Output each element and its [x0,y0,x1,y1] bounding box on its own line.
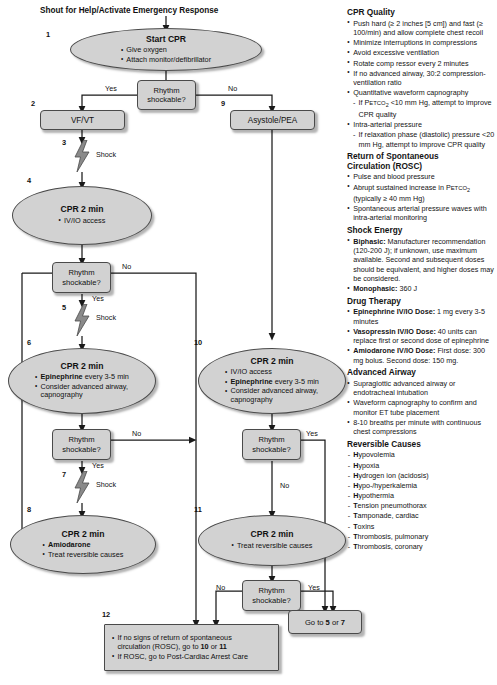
goto-or: or [330,618,341,627]
rosc-item-1: Pulse and blood pressure [347,172,495,181]
rosc-petco2-rest: (typically ≥ 40 mm Hg) [353,194,424,203]
advanced-airway-item-3: 8-10 breaths per minute with continuous … [347,418,495,437]
step-number-9: 9 [221,99,225,108]
rc-7-rest: amponade, cardiac [358,511,419,520]
petco2-prefix: If P [359,98,370,107]
rc-3-rest: ydrogen ion (acidosis) [358,471,428,480]
epinephrine-label-6: Epinephrine [40,372,82,381]
step-number-1: 1 [46,30,50,39]
advanced-airway-heading: Advanced Airway [347,368,495,378]
outcome-goto-11: 11 [219,642,227,651]
shock-energy-list: Biphasic: Manufacturer recommendation (1… [347,237,495,294]
node-cpr-2min-6[interactable]: CPR 2 min Epinephrine every 3-5 min Cons… [8,348,156,414]
step-number-8: 8 [27,505,31,514]
node-cpr-2min-11-line-1: Treat reversible causes [232,542,313,551]
decision-rhythm-shockable-5[interactable]: Rhythm shockable? [242,580,301,611]
drug-item-vasopressin: Vasopressin IV/IO Dose: 40 units can rep… [347,327,495,346]
shock-energy-heading: Shock Energy [347,226,495,236]
decision-2-line-1: Rhythm [55,268,108,277]
advanced-airway-list: Supraglottic advanced airway or endotrac… [347,379,495,437]
node-cpr-2min-4-line-1: IV/IO access [59,217,106,226]
shock-energy-biphasic: Biphasic: Manufacturer recommendation (1… [347,237,495,284]
shock-bolt-icon-5 [73,304,91,340]
node-cpr-2min-4[interactable]: CPR 2 min IV/IO access [12,186,152,245]
epinephrine-dose-label: Epinephrine IV/IO Dose: [353,307,435,316]
edge-label-yes-3: Yes [92,461,104,470]
node-asystole-pea[interactable]: Asystole/PEA [230,110,315,130]
rosc-petco2-prefix: Abrupt sustained increase in P [353,183,451,192]
node-outcome-lines: If no signs of return of spontaneouscirc… [112,634,271,662]
node-vf-vt[interactable]: VF/VT [40,110,125,130]
reversible-cause-6: Tension pneumothorax [347,501,495,510]
node-cpr-2min-11-title: CPR 2 min [219,530,325,540]
advanced-airway-item-1: Supraglottic advanced airway or endotrac… [347,379,495,398]
rc-8-rest: oxins [358,522,375,531]
edge-label-shock-3: Shock [96,150,116,159]
edge-label-no-1: No [228,84,237,93]
drug-therapy-heading: Drug Therapy [347,297,495,307]
top-instruction-text: Shout for Help/Activate Emergency Respon… [40,6,218,15]
reversible-cause-2: Hypoxia [347,461,495,470]
edge-label-shock-5: Shock [96,313,116,322]
epinephrine-label-10: Epinephrine [230,377,272,386]
vasopressin-dose-label: Vasopressin IV/IO Dose: [353,327,436,336]
node-cpr-2min-8-title: CPR 2 min [33,530,133,540]
node-start-cpr-title: Start CPR [93,35,239,45]
decision-2-line-2: shockable? [55,278,108,287]
edge-label-shock-7: Shock [96,480,116,489]
shock-energy-monophasic: Monophasic: 360 J [347,284,495,293]
cpr-quality-item-capnography-detail: If PETCO2 <10 mm Hg, attempt to improve … [347,98,495,119]
edge-label-no-5: No [216,583,225,592]
section-drug-therapy: Drug Therapy Epinephrine IV/IO Dose: 1 m… [347,297,495,366]
reversible-causes-heading: Reversible Causes [347,440,495,450]
node-cpr-2min-8[interactable]: CPR 2 min Amiodarone Treat reversible ca… [10,515,156,574]
edge-label-no-3: No [132,429,141,438]
reversible-causes-list: Hypovolemia Hypoxia Hydrogen ion (acidos… [347,450,495,551]
decision-rhythm-shockable-1[interactable]: Rhythm shockable? [137,80,196,110]
reversible-cause-7: Tamponade, cardiac [347,511,495,520]
airway-text-6: Consider advanced airway, [40,382,127,391]
node-cpr-2min-11[interactable]: CPR 2 min Treat reversible causes [198,515,346,566]
rosc-item-3: Spontaneous arterial pressure waves with… [347,204,495,223]
go-to-label: Go to 5 or 7 [289,618,361,627]
step-number-3: 3 [62,138,66,147]
outcome-l1a: If no signs of return of spontaneous [117,633,231,642]
rc-9-rest: hrombosis, pulmonary [358,532,429,541]
node-start-cpr[interactable]: Start CPR Give oxygen Attach monitor/def… [70,28,262,71]
section-shock-energy: Shock Energy Biphasic: Manufacturer reco… [347,226,495,294]
edge-label-no-2: No [122,262,131,271]
shock-bolt-icon-3 [73,140,91,176]
node-vf-vt-label: VF/VT [41,116,124,125]
node-cpr-2min-10-lines: IV/IO access Epinephrine every 3-5 min C… [225,368,319,405]
reversible-cause-5: Hypothermia [347,491,495,500]
biphasic-label: Biphasic: [353,237,385,246]
decision-rhythm-shockable-2[interactable]: Rhythm shockable? [52,262,111,293]
rc-1-rest: ypovolemia [358,450,394,459]
edge-label-no-4: No [280,481,289,490]
section-reversible-causes: Reversible Causes Hypovolemia Hypoxia Hy… [347,440,495,552]
monophasic-text: 360 J [398,284,418,293]
decision-3-line-1: Rhythm [55,435,108,444]
section-rosc: Return of Spontaneous Circulation (ROSC)… [347,152,495,223]
node-asystole-pea-label: Asystole/PEA [231,116,314,125]
decision-rhythm-shockable-3[interactable]: Rhythm shockable? [52,429,111,460]
reversible-cause-8: Toxins [347,522,495,531]
node-cpr-2min-10[interactable]: CPR 2 min IV/IO access Epinephrine every… [198,348,346,414]
drug-therapy-list: Epinephrine IV/IO Dose: 1 mg every 3-5 m… [347,307,495,365]
node-go-to-5-or-7[interactable]: Go to 5 or 7 [288,610,362,634]
shock-bolt-icon-7 [73,471,91,507]
node-cpr-2min-10-line-3: Consider advanced airway, [225,387,319,396]
cpr-quality-item-5: If no advanced airway, 30:2 compression-… [347,69,495,88]
epinephrine-rest-6: every 3-5 min [83,372,129,381]
decision-rhythm-shockable-4[interactable]: Rhythm shockable? [242,429,301,460]
node-outcome-box[interactable]: If no signs of return of spontaneouscirc… [104,624,279,671]
goto-prefix: Go to [305,618,326,627]
node-outcome-line-1: If no signs of return of spontaneouscirc… [112,634,271,652]
node-cpr-2min-4-lines: IV/IO access [59,216,106,225]
rosc-item-2: Abrupt sustained increase in PETCO2 (typ… [347,183,495,204]
section-cpr-quality: CPR Quality Push hard (≥ 2 inches [5 cm]… [347,8,495,149]
rosc-heading-line-1: Return of Spontaneous [347,151,439,161]
reversible-cause-1: Hypovolemia [347,450,495,459]
epinephrine-rest-10: every 3-5 min [273,377,319,386]
rc-2-rest: ypoxia [358,461,379,470]
